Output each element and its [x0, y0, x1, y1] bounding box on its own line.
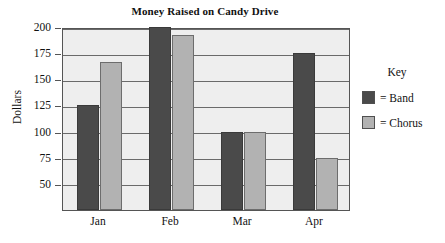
y-tick-mark [55, 106, 61, 107]
legend-swatch-band [362, 91, 375, 104]
bar-feb-band [149, 27, 171, 210]
plot-area [62, 28, 350, 211]
y-tick-label: 175 [13, 48, 51, 59]
legend: Key = Band= Chorus [362, 66, 445, 141]
gridline [63, 29, 349, 30]
bar-apr-chorus [316, 158, 338, 210]
bar-mar-band [221, 132, 243, 210]
bar-apr-band [293, 53, 315, 210]
x-tick-label-mar: Mar [206, 215, 278, 227]
y-tick-mark [55, 54, 61, 55]
y-tick-label: 75 [13, 153, 51, 164]
y-tick-mark [55, 28, 61, 29]
legend-entry-band: = Band [362, 91, 445, 104]
y-tick-label: 100 [13, 127, 51, 138]
legend-label: = Band [380, 92, 414, 104]
legend-swatch-chorus [362, 116, 375, 129]
y-tick-label: 150 [13, 74, 51, 85]
y-tick-mark [55, 185, 61, 186]
y-tick-label: 125 [13, 100, 51, 111]
x-tick-label-jan: Jan [62, 215, 134, 227]
chart-title: Money Raised on Candy Drive [60, 5, 350, 17]
legend-entry-chorus: = Chorus [362, 116, 445, 129]
x-tick-label-feb: Feb [134, 215, 206, 227]
bar-feb-chorus [172, 35, 194, 210]
legend-entries: = Band= Chorus [362, 91, 445, 129]
x-tick-label-apr: Apr [278, 215, 350, 227]
y-tick-label: 200 [13, 22, 51, 33]
bar-jan-band [77, 105, 99, 210]
legend-title: Key [366, 66, 428, 78]
y-tick-mark [55, 133, 61, 134]
legend-label: = Chorus [380, 117, 423, 129]
y-tick-mark [55, 159, 61, 160]
bar-chart-figure: Money Raised on Candy Drive Dollars 5075… [0, 0, 445, 243]
y-tick-label: 50 [13, 179, 51, 190]
bar-jan-chorus [100, 62, 122, 210]
y-tick-mark [55, 80, 61, 81]
bar-mar-chorus [244, 132, 266, 210]
